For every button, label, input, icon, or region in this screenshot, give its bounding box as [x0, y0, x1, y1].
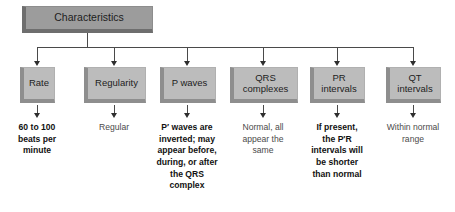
connector-caption-pr-intervals: [337, 105, 338, 113]
node-qt-intervals: QT intervals: [386, 67, 441, 103]
node-qt-intervals-label: QT intervals: [395, 73, 434, 94]
connector-caption-qt-intervals: [413, 105, 414, 113]
arrowhead-caption-qt-intervals: [410, 113, 416, 118]
connector-caption-p-waves: [187, 105, 188, 113]
caption-qrs-complexes: Normal, all appear the same: [231, 122, 295, 157]
caption-p-waves: P′ waves are inverted; may appear before…: [150, 122, 224, 192]
caption-qt-intervals: Within normal range: [380, 122, 446, 145]
node-p-waves: P waves: [160, 67, 216, 103]
caption-regularity: Regular: [86, 122, 142, 134]
arrowhead-pr-intervals: [334, 61, 340, 66]
node-pr-intervals-label: PR intervals: [319, 73, 358, 94]
arrowhead-qrs-complexes: [260, 61, 266, 66]
node-pr-intervals: PR intervals: [310, 67, 365, 103]
arrowhead-caption-regularity: [111, 113, 117, 118]
connector-caption-qrs-complexes: [263, 105, 264, 113]
connector-drop-qrs-complexes: [263, 47, 264, 61]
caption-rate: 60 to 100 beats per minute: [7, 122, 67, 157]
characteristics-flowchart: Characteristics Rate Regularity P waves …: [0, 0, 455, 212]
arrowhead-caption-rate: [34, 113, 40, 118]
node-characteristics-label: Characteristics: [52, 12, 125, 24]
connector-drop-qt-intervals: [413, 47, 414, 61]
node-qrs-complexes-label: QRS complexes: [241, 73, 290, 94]
connector-drop-pr-intervals: [337, 47, 338, 61]
arrowhead-qt-intervals: [410, 61, 416, 66]
arrowhead-caption-qrs-complexes: [260, 113, 266, 118]
connector-drop-regularity: [114, 47, 115, 61]
caption-pr-intervals: If present, the P′R intervals will be sh…: [302, 122, 372, 180]
arrowhead-caption-p-waves: [184, 113, 190, 118]
node-qrs-complexes: QRS complexes: [230, 67, 298, 103]
connector-drop-rate: [37, 47, 38, 61]
node-regularity: Regularity: [84, 67, 146, 103]
connector-caption-regularity: [114, 105, 115, 113]
connector-caption-rate: [37, 105, 38, 113]
node-rate-label: Rate: [27, 78, 51, 89]
connector-horizontal-bus: [37, 47, 413, 48]
arrowhead-caption-pr-intervals: [334, 113, 340, 118]
connector-drop-p-waves: [187, 47, 188, 61]
node-characteristics: Characteristics: [22, 6, 153, 33]
arrowhead-rate: [34, 61, 40, 66]
node-regularity-label: Regularity: [93, 78, 140, 89]
connector-root-stem: [87, 33, 88, 47]
arrowhead-regularity: [111, 61, 117, 66]
node-p-waves-label: P waves: [170, 78, 210, 89]
node-rate: Rate: [20, 67, 55, 103]
arrowhead-p-waves: [184, 61, 190, 66]
